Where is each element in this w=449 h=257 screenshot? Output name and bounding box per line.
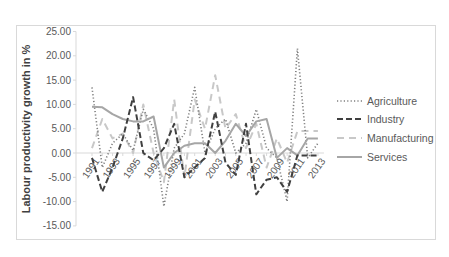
y-tick-label: -10.00 [43,196,72,207]
y-tick-label: 5.00 [52,123,72,134]
y-tick-label: -5.00 [48,172,71,183]
x-tick-label: 2013 [306,156,328,181]
y-tick-label: 0.00 [52,148,72,159]
line-chart: Labour productivity growth in % 25.0020.… [0,0,449,257]
x-tick-label: 1993 [100,156,122,181]
y-tick-label: 10.00 [46,99,71,110]
series-line-industry [92,97,318,194]
y-tick-label: 15.00 [46,75,71,86]
legend-label-manufacturing: Manufacturing [367,132,434,144]
x-tick-label: 2003 [203,156,225,181]
x-tick-label: 1995 [121,156,143,181]
y-axis: 25.0020.0015.0010.005.000.00-5.00-10.00-… [43,26,76,231]
legend: AgricultureIndustryManufacturingServices [337,95,434,163]
plot-area [92,49,318,207]
y-tick-label: -15.00 [43,220,72,231]
y-axis-title: Labour productivity growth in % [20,44,32,213]
y-tick-label: 25.00 [46,26,71,37]
x-tick-label: 2005 [224,156,246,181]
legend-label-industry: Industry [367,113,405,125]
legend-label-agriculture: Agriculture [367,95,417,107]
x-tick-label: 2007 [244,156,266,181]
y-tick-label: 20.00 [46,50,71,61]
legend-label-services: Services [367,151,407,163]
y-axis-title-text: Labour productivity growth in % [20,44,32,213]
